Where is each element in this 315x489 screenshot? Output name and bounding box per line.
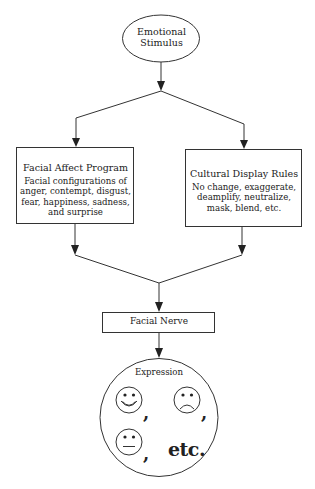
stimulus-line-2: Stimulus: [123, 38, 200, 49]
expression-label: Expression: [120, 368, 198, 378]
arrow-split-to-display-rules: [161, 91, 244, 140]
comma-separator-3: ,: [143, 443, 149, 464]
stimulus-label: Emotional Stimulus: [123, 27, 200, 49]
display-rules-line-3: mask, blend, etc.: [186, 203, 302, 213]
affect-program-line-2: anger, contempt, disgust,: [17, 186, 134, 196]
affect-program-label: Facial Affect Program Facial configurati…: [17, 163, 134, 217]
display-rules-label: Cultural Display Rules No change, exagge…: [186, 169, 302, 213]
etc-label: etc.: [168, 438, 205, 460]
affect-program-title: Facial Affect Program: [17, 163, 134, 174]
display-rules-title: Cultural Display Rules: [186, 169, 302, 180]
affect-program-line-4: and surprise: [17, 207, 134, 217]
flowchart-canvas: [0, 0, 315, 489]
comma-separator-1: ,: [143, 402, 149, 423]
arrow-split-to-affect-program: [76, 91, 161, 138]
facial-nerve-label: Facial Nerve: [103, 316, 215, 326]
merge-lines: [75, 255, 242, 283]
display-rules-line-2: deamplify, neutralize,: [186, 192, 302, 202]
display-rules-line-1: No change, exaggerate,: [186, 182, 302, 192]
affect-program-line-3: fear, happiness, sadness,: [17, 197, 134, 207]
affect-program-line-1: Facial configurations of: [17, 176, 134, 186]
comma-separator-2: ,: [201, 402, 207, 423]
